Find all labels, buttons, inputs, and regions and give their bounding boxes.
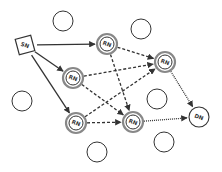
edge-dashed-arrow — [110, 54, 129, 110]
idle-node-icon — [12, 91, 32, 111]
edge-solid-arrow — [35, 52, 63, 71]
idle-nodes — [12, 11, 174, 162]
idle-node-icon — [53, 11, 73, 31]
edge-dotted-arrow — [144, 118, 187, 121]
network-diagram: SNRNRNRNRNRNDN — [0, 0, 222, 172]
edge-dashed-arrow — [118, 47, 154, 58]
edge-dashed-arrow — [85, 69, 155, 117]
idle-node-icon — [87, 142, 107, 162]
idle-node-icon — [147, 89, 167, 109]
node-rn1[interactable]: RN — [97, 34, 117, 54]
idle-node-icon — [154, 132, 174, 152]
node-rn5[interactable]: RN — [123, 112, 143, 132]
node-rn4[interactable]: RN — [66, 113, 86, 133]
node-rn3[interactable]: RN — [155, 52, 175, 72]
edge-dashed-arrow — [87, 122, 121, 123]
node-dn[interactable]: DN — [189, 107, 209, 127]
node-sn[interactable]: SN — [15, 35, 35, 55]
edge-dotted-arrow — [171, 71, 193, 106]
edge-dashed-arrow — [82, 85, 123, 115]
edge-solid-arrow — [37, 44, 95, 45]
edge-dashed-arrow — [84, 64, 153, 76]
node-rn2[interactable]: RN — [63, 68, 83, 88]
idle-node-icon — [131, 19, 151, 39]
